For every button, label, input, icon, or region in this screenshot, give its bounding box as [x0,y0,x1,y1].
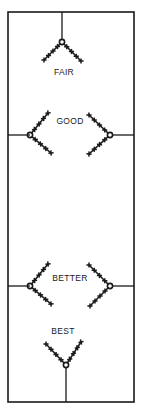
cross-stitch-icon [69,357,70,362]
label-best: BEST [51,327,74,336]
label-fair: FAIR [54,68,74,77]
better-stitch-left [27,261,53,306]
cross-stitch-icon [80,339,81,344]
cross-stitch-icon [34,127,35,132]
cross-stitch-icon [39,121,40,126]
label-good: GOOD [56,117,83,126]
stitch-groups [27,39,112,367]
cross-stitch-icon [77,345,78,350]
better-stitch-right [86,262,112,308]
fair-stitch [41,39,83,63]
good-stitch-right [86,112,112,156]
cross-stitch-icon [48,110,49,115]
cross-stitch-icon [48,261,49,266]
good-stitch-left [27,110,53,155]
cross-stitch-icon [39,272,40,277]
cross-stitch-icon [73,351,74,356]
cross-stitch-icon [43,116,44,121]
label-better: BETTER [52,274,87,283]
cross-stitch-icon [43,267,44,272]
stitch-quality-diagram [0,0,142,407]
best-stitch [43,339,83,367]
cross-stitch-icon [34,278,35,283]
